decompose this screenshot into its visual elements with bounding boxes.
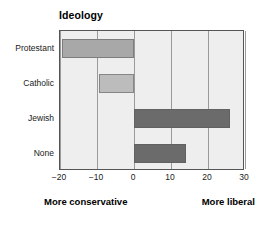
x-tick-label-20: 20 [202, 172, 211, 182]
x-tick-label-30: 30 [239, 172, 248, 182]
gridline-30 [245, 31, 246, 169]
chart-title: Ideology [59, 9, 103, 21]
category-label-catholic: Catholic [23, 78, 54, 88]
category-axis-labels: ProtestantCatholicJewishNone [0, 30, 54, 170]
bar-catholic [99, 74, 134, 93]
bar-jewish [134, 109, 230, 128]
ideology-bar-chart: Ideology ProtestantCatholicJewishNone −2… [0, 0, 267, 226]
bars-layer [60, 31, 243, 169]
x-axis-tick-labels: −20−100102030 [59, 172, 244, 186]
x-tick-label-10: 10 [165, 172, 174, 182]
more-liberal-label: More liberal [202, 196, 255, 207]
category-label-jewish: Jewish [28, 113, 54, 123]
more-conservative-label: More conservative [44, 196, 127, 207]
x-tick-label--20: −20 [52, 172, 66, 182]
category-label-protestant: Protestant [15, 43, 54, 53]
bar-protestant [62, 39, 134, 58]
x-tick-label-0: 0 [131, 172, 136, 182]
x-tick-label--10: −10 [89, 172, 103, 182]
plot-area [59, 30, 244, 170]
category-label-none: None [34, 148, 54, 158]
bar-none [134, 144, 186, 163]
